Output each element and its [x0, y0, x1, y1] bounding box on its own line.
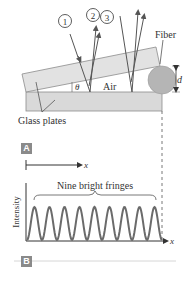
ray-label-3: 3: [101, 11, 114, 24]
x-reference-label: x: [83, 160, 88, 170]
angle-label: θ: [75, 82, 80, 92]
y-axis-label: Intensity: [11, 196, 21, 228]
air-label: Air: [103, 81, 117, 92]
fiber-icon: [148, 66, 176, 94]
fringes-annotation: Nine bright fringes: [57, 180, 133, 191]
ray-label-2: 2: [87, 9, 100, 22]
ray-label-1: 1: [59, 15, 72, 28]
x-axis-label: x: [169, 236, 174, 246]
panel-b-tag: B: [21, 256, 32, 267]
glass-plates-label: Glass plates: [18, 115, 66, 126]
svg-text:1: 1: [63, 17, 68, 27]
panel-a-tag: A: [21, 143, 32, 154]
thin-film-interference-figure: Fiber d 1 2 3 θ Air Glass plates: [0, 0, 188, 284]
svg-text:3: 3: [105, 13, 110, 23]
fringe-brace: [34, 191, 156, 200]
fiber-label: Fiber: [155, 29, 177, 40]
intensity-curve: [27, 207, 162, 240]
thickness-label: d: [177, 74, 183, 85]
svg-text:2: 2: [91, 11, 96, 21]
fiber-leader-line: [160, 40, 163, 64]
x-reference-axis: [26, 160, 80, 170]
